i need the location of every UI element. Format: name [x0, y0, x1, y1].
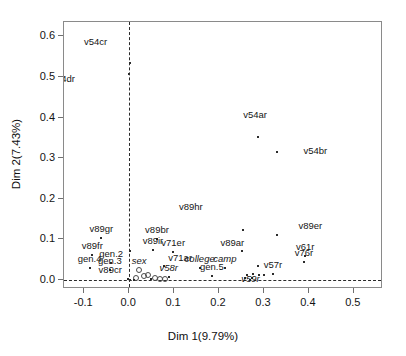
- x-tick: [353, 288, 354, 293]
- point-label: v54ar: [243, 110, 267, 120]
- y-tick-label: 0.0: [25, 273, 55, 285]
- data-point: [141, 273, 147, 279]
- point-label: v76r: [295, 248, 313, 258]
- data-point: [263, 274, 265, 276]
- scatter-plot-figure: v54crv54drv54arv54brv89hrv89erv89grv89br…: [0, 0, 406, 356]
- point-label: v54br: [304, 146, 328, 156]
- data-point: [257, 136, 259, 138]
- x-tick-label: 0.4: [300, 296, 315, 308]
- reference-line-horizontal: [64, 280, 381, 281]
- point-label: v54dr: [64, 74, 75, 84]
- data-point: [242, 229, 244, 231]
- x-tick-label: 0.5: [345, 296, 360, 308]
- point-label: v89ir: [143, 236, 164, 246]
- x-tick: [218, 288, 219, 293]
- y-tick: [58, 157, 63, 158]
- data-point: [128, 73, 130, 75]
- point-label: v89br: [145, 225, 169, 235]
- x-tick: [308, 288, 309, 293]
- point-label: v71er: [161, 238, 185, 248]
- data-point: [127, 278, 129, 280]
- data-point: [100, 237, 102, 239]
- y-tick-label: 0.1: [25, 232, 55, 244]
- data-point: [241, 250, 243, 252]
- y-tick: [58, 76, 63, 77]
- data-point: [276, 234, 278, 236]
- data-point: [276, 151, 278, 153]
- y-tick-label: 0.2: [25, 192, 55, 204]
- x-tick-label: -0.1: [74, 296, 93, 308]
- x-tick-label: 0.0: [120, 296, 135, 308]
- plot-area: v54crv54drv54arv54brv89hrv89erv89grv89br…: [64, 22, 381, 287]
- y-axis-label: Dim 2(7.43%): [10, 94, 22, 214]
- data-point: [152, 249, 154, 251]
- y-tick-label: 0.6: [25, 29, 55, 41]
- point-label: v57r: [264, 260, 282, 270]
- point-label: v89gr: [89, 224, 113, 234]
- point-label: gen.5: [200, 262, 224, 272]
- data-point: [129, 62, 131, 64]
- x-axis-label: Dim 1(9.79%): [0, 330, 406, 342]
- data-point: [89, 267, 91, 269]
- y-tick-label: 0.4: [25, 111, 55, 123]
- x-tick-label: 0.2: [210, 296, 225, 308]
- data-point: [133, 279, 135, 281]
- plot-frame: v54crv54drv54arv54brv89hrv89erv89grv89br…: [63, 21, 382, 288]
- x-tick: [83, 288, 84, 293]
- data-point: [211, 275, 213, 277]
- data-point: [168, 276, 170, 278]
- data-point: [303, 261, 305, 263]
- point-label: v54cr: [84, 37, 107, 47]
- x-tick: [128, 288, 129, 293]
- point-label: v89cr: [99, 265, 122, 275]
- data-point: [224, 267, 226, 269]
- data-point: [257, 265, 259, 267]
- x-tick: [263, 288, 264, 293]
- data-point: [272, 273, 274, 275]
- point-label: sex: [132, 256, 147, 266]
- x-tick-label: 0.1: [165, 296, 180, 308]
- point-label: v89ar: [220, 238, 244, 248]
- data-point: [150, 278, 152, 280]
- y-tick: [58, 198, 63, 199]
- point-label: v89er: [299, 221, 323, 231]
- data-point: [129, 250, 131, 252]
- data-point: [129, 279, 131, 281]
- point-label: v58r: [159, 263, 177, 273]
- y-tick-label: 0.3: [25, 151, 55, 163]
- x-tick: [173, 288, 174, 293]
- y-tick: [58, 238, 63, 239]
- y-tick: [58, 35, 63, 36]
- y-tick-label: 0.5: [25, 70, 55, 82]
- data-point: [136, 267, 142, 273]
- point-label: v89hr: [179, 202, 203, 212]
- y-tick: [58, 279, 63, 280]
- point-label: v59r: [241, 274, 259, 284]
- y-tick: [58, 117, 63, 118]
- x-tick-label: 0.3: [255, 296, 270, 308]
